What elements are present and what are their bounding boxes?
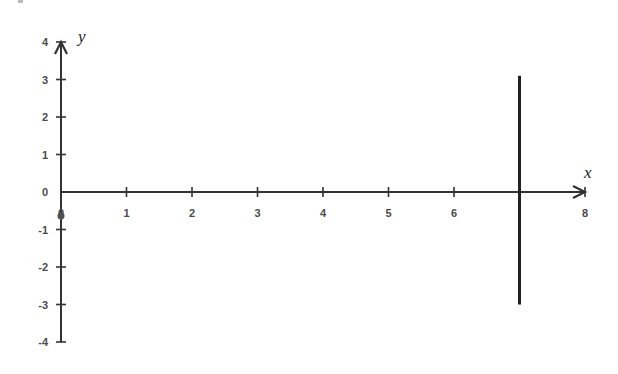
y-tick-label: 3 (42, 74, 48, 86)
x-tick-label: 5 (385, 207, 391, 219)
axes (55, 42, 585, 342)
x-tick-label: 3 (254, 207, 260, 219)
y-tick-label: -1 (38, 224, 48, 236)
x-axis-label: x (583, 163, 592, 182)
y-tick-labels: 43210-1-2-3-4 (38, 36, 49, 348)
y-tick-label: -4 (38, 336, 49, 348)
x-tick-label: 6 (451, 207, 457, 219)
y-tick-label: 0 (42, 186, 48, 198)
x-tick-label: 0 (58, 207, 64, 219)
y-tick-label: 2 (42, 111, 48, 123)
y-tick-label: -2 (38, 261, 48, 273)
y-tick-label: 4 (42, 36, 49, 48)
x-tick-label: 8 (582, 207, 588, 219)
y-tick-label: -3 (38, 299, 48, 311)
y-axis-label: y (76, 27, 86, 46)
x-tick-label: 2 (189, 207, 195, 219)
x-tick-label: 4 (320, 207, 327, 219)
x-tick-labels: 01234568 (58, 207, 588, 219)
y-tick-label: 1 (42, 149, 48, 161)
coordinate-plane: 01234568 43210-1-2-3-4 x y (0, 0, 618, 374)
x-tick-label: 1 (123, 207, 129, 219)
